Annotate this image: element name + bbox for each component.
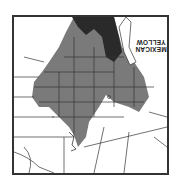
species-name: MEXICAN YELLOW (130, 39, 169, 53)
map-frame: MEXICAN YELLOW (12, 15, 169, 175)
species-name-line2: YELLOW (130, 39, 169, 46)
range-primary-area (32, 17, 149, 147)
species-name-line1: MEXICAN (130, 46, 169, 53)
